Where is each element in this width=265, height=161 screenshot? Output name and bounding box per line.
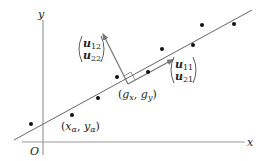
- data-points: [29, 22, 236, 126]
- data-point: [200, 23, 204, 27]
- x-axis-label: x: [247, 136, 254, 149]
- data-point: [96, 96, 100, 100]
- origin-label: O: [30, 145, 39, 158]
- sample-point-label: (xα, yα): [61, 120, 100, 134]
- svg-text:u22: u22: [83, 49, 101, 63]
- data-point: [115, 75, 119, 79]
- principal-vector-arrow: [128, 60, 173, 85]
- regression-line: [14, 10, 252, 140]
- data-point: [29, 122, 33, 126]
- principal-vector-label: u11 u21: [171, 57, 196, 84]
- data-point: [146, 70, 150, 74]
- y-axis-label: y: [37, 8, 45, 21]
- svg-text:u21: u21: [175, 70, 193, 84]
- data-point: [70, 113, 74, 117]
- data-point: [191, 43, 195, 47]
- pca-diagram: y x O u12 u22 u11 u21 (gx, gy) (xα, yα): [0, 0, 265, 161]
- data-point: [232, 22, 236, 26]
- data-point: [160, 47, 164, 51]
- normal-vector-label: u12 u22: [79, 36, 104, 63]
- centroid-label: (gx, gy): [118, 88, 157, 102]
